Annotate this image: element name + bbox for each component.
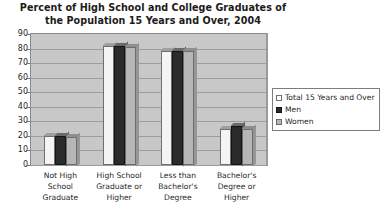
bar-face xyxy=(183,51,194,165)
bar-face xyxy=(231,126,242,165)
y-axis-tick-label: 30 xyxy=(4,117,28,125)
legend-label: Women xyxy=(285,117,314,126)
bar-women xyxy=(183,51,194,165)
bar-face xyxy=(125,47,136,165)
category-label-line: School xyxy=(31,181,90,192)
bar-total xyxy=(103,46,114,165)
bar-side xyxy=(194,47,197,167)
y-axis-tick-label: 90 xyxy=(4,30,28,38)
bar-women xyxy=(66,137,77,165)
category-label-line: Degree xyxy=(149,192,208,203)
bar-side xyxy=(136,43,139,167)
bar-men xyxy=(231,126,242,165)
bar-group xyxy=(149,34,208,165)
bar-group xyxy=(90,34,149,165)
chart-title-line-2: the Population 15 Years and Over, 2004 xyxy=(0,15,306,28)
legend-item: Women xyxy=(276,116,376,127)
category-label-line: High School xyxy=(90,170,149,181)
category-label-line: Not High xyxy=(31,170,90,181)
x-axis-category-label: High SchoolGraduate orHigher xyxy=(90,170,149,203)
bar-face xyxy=(161,51,172,165)
legend-swatch-women xyxy=(276,119,282,125)
x-axis-category-labels: Not HighSchoolGraduateHigh SchoolGraduat… xyxy=(31,170,266,203)
bar-face xyxy=(220,129,231,165)
chart-title: Percent of High School and College Gradu… xyxy=(0,2,306,27)
bar-group xyxy=(207,34,266,165)
category-label-line: Less than xyxy=(149,170,208,181)
bar-men xyxy=(114,46,125,165)
x-axis-category-label: Bachelor'sDegree orHigher xyxy=(207,170,266,203)
legend: Total 15 Years and OverMenWomen xyxy=(272,88,380,131)
category-label-line: Bachelor's xyxy=(207,170,266,181)
legend-swatch-men xyxy=(276,107,282,113)
bar-women xyxy=(125,47,136,165)
x-axis-category-label: Not HighSchoolGraduate xyxy=(31,170,90,203)
category-label-line: Graduate xyxy=(31,192,90,203)
category-label-line: Higher xyxy=(207,192,266,203)
bar-women xyxy=(242,129,253,165)
legend-label: Total 15 Years and Over xyxy=(285,93,375,102)
bar-total xyxy=(161,51,172,165)
bar-total xyxy=(220,129,231,165)
y-axis-tick-label: 20 xyxy=(4,132,28,140)
y-axis-tick-label: 10 xyxy=(4,146,28,154)
bar-face xyxy=(172,51,183,165)
bar-men xyxy=(55,136,66,165)
bar-face xyxy=(44,136,55,165)
bar-face xyxy=(66,137,77,165)
bar-side xyxy=(77,133,80,167)
y-axis-tick-label: 60 xyxy=(4,74,28,82)
y-axis-tick-label: 0 xyxy=(4,161,28,169)
y-axis-tick-label: 50 xyxy=(4,88,28,96)
category-label-line: Degree or xyxy=(207,181,266,192)
legend-item: Men xyxy=(276,104,376,115)
bar-chart: Percent of High School and College Gradu… xyxy=(0,0,384,218)
bar-face xyxy=(242,129,253,165)
category-label-line: Bachelor's xyxy=(149,181,208,192)
chart-title-line-1: Percent of High School and College Gradu… xyxy=(0,2,306,15)
bar-face xyxy=(55,136,66,165)
y-axis-tick-label: 40 xyxy=(4,103,28,111)
bar-side xyxy=(253,124,256,166)
category-label-line: Higher xyxy=(90,192,149,203)
legend-swatch-total xyxy=(276,95,282,101)
legend-label: Men xyxy=(285,105,301,114)
y-axis: 9080706050403020100 xyxy=(0,33,28,166)
x-axis-category-label: Less thanBachelor'sDegree xyxy=(149,170,208,203)
y-axis-tick-label: 80 xyxy=(4,45,28,53)
bar-total xyxy=(44,136,55,165)
bar-group xyxy=(31,34,90,165)
bar-groups xyxy=(31,34,266,165)
y-axis-tick-label: 70 xyxy=(4,59,28,67)
bar-face xyxy=(114,46,125,165)
legend-item: Total 15 Years and Over xyxy=(276,92,376,103)
category-label-line: Graduate or xyxy=(90,181,149,192)
bar-men xyxy=(172,51,183,165)
bar-face xyxy=(103,46,114,165)
